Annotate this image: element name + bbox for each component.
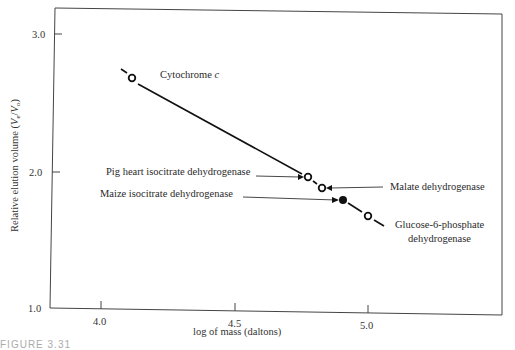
label-maize-icdh: Maize isocitrate dehydrogenase bbox=[100, 188, 233, 199]
y-tick-1: 1.0 bbox=[28, 303, 41, 314]
y-tick-3: 3.0 bbox=[32, 29, 45, 40]
point-g6pd bbox=[365, 213, 372, 220]
label-cytochrome-c: Cytochrome c bbox=[160, 69, 220, 80]
figure-caption: FIGURE 3.31 bbox=[0, 339, 71, 350]
point-pig-heart-icdh bbox=[305, 174, 312, 181]
point-maize-icdh bbox=[339, 196, 347, 204]
annotation-arrows bbox=[243, 174, 383, 203]
y-axis-title: Relative elution volume (Ve/Vo) bbox=[9, 99, 22, 232]
y-tick-2: 2.0 bbox=[29, 167, 42, 178]
plot-frame bbox=[50, 8, 502, 315]
label-g6pd-line2: dehydrogenase bbox=[408, 233, 471, 244]
x-axis-title: log of mass (daltons) bbox=[193, 326, 282, 338]
x-tick-5.0: 5.0 bbox=[360, 320, 373, 331]
label-g6pd-line1: Glucose-6-phosphate bbox=[395, 219, 485, 230]
point-cytochrome-c bbox=[129, 75, 136, 82]
point-malate-dh bbox=[319, 185, 326, 192]
label-malate-dh: Malate dehydrogenase bbox=[390, 181, 485, 192]
x-tick-4.0: 4.0 bbox=[93, 316, 106, 327]
label-pig-heart-icdh: Pig heart isocitrate dehydrogenase bbox=[106, 166, 251, 177]
